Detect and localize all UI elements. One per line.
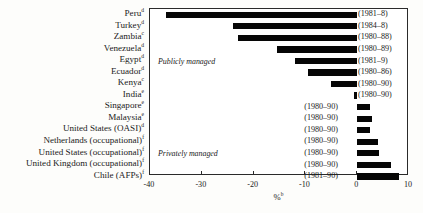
category-label: Perud [0,8,147,20]
category-label: Venezuelad [0,43,147,55]
category-label: Singaporee [0,100,147,112]
period-label: (1980–90) [358,79,392,90]
bar [357,162,391,168]
bar [308,69,357,75]
bar [357,139,378,145]
category-label: United States (occupational)f [0,147,147,159]
x-axis-tick-label: -40 [144,180,155,189]
bar-row: (1980–90) [150,113,407,125]
category-label: United Kingdom (occupational)f [0,158,147,170]
period-label: (1980–89) [358,44,392,55]
x-axis-tick-label: -20 [247,180,258,189]
x-axis-tick [356,171,357,175]
category-axis-labels: PerudTurkeydZambiacVenezueladEgyptdEcuad… [0,8,147,181]
period-label: (1980–88) [358,32,392,43]
category-label: Ecuadord [0,66,147,78]
x-axis-tick [304,171,305,175]
bar [295,58,357,64]
bar-row: (1981–90) [150,171,407,183]
bar [357,104,370,110]
period-label: (1981–8) [358,9,388,20]
period-label: (1980–90) [304,160,338,171]
bar-row: (1980–89) [150,44,407,56]
bar [277,46,357,52]
period-label: (1980–90) [304,125,338,136]
bar-row: (1980–90) [150,78,407,90]
period-label: (1980–86) [358,67,392,78]
category-label: Turkeyd [0,20,147,32]
bar [357,150,379,156]
period-label: (1984–8) [358,21,388,32]
group-annotation-private: Privately managed [158,149,218,158]
x-axis-tick-label: 0 [354,180,358,189]
x-axis: -40-30-20-10010 [149,175,408,176]
bar-row: (1984–8) [150,21,407,33]
bar [331,81,357,87]
figure-gross-returns-chart: PerudTurkeydZambiacVenezueladEgyptdEcuad… [0,0,423,213]
category-label: Netherlands (occupational)f [0,135,147,147]
bar-row: (1980–88) [150,32,407,44]
period-label: (1980–90) [358,90,392,101]
bar [354,92,358,98]
bar [238,35,357,41]
bar [357,127,370,133]
category-label: Kenyac [0,77,147,89]
x-axis-tick-label: 10 [404,180,412,189]
period-label: (1980–90) [304,136,338,147]
category-label: Indiae [0,89,147,101]
period-label: (1980–90) [304,113,338,124]
category-label: United States (OASI)d [0,123,147,135]
bar-row: (1980–90) [150,101,407,113]
category-label: Malaysiae [0,112,147,124]
bar-row: (1980–90) [150,90,407,102]
x-axis-tick [201,171,202,175]
bar [233,23,357,29]
x-axis-tick [253,171,254,175]
period-label: (1981–9) [358,56,388,67]
x-axis-tick-label: -30 [195,180,206,189]
bar-row: (1980–90) [150,136,407,148]
category-label: Egyptd [0,54,147,66]
category-label: Zambiac [0,31,147,43]
x-axis-title: %b [149,192,408,202]
category-label: Chile (AFPs)f [0,170,147,182]
bar-row: (1981–8) [150,9,407,21]
x-axis-tick-label: -10 [299,180,310,189]
bar [357,116,372,122]
bar [166,12,358,18]
bar-row: (1980–90) [150,124,407,136]
bar-row: (1980–86) [150,67,407,79]
period-label: (1980–90) [304,148,338,159]
plot-area: (1981–8)(1984–8)(1980–88)(1980–89)(1981–… [149,8,408,175]
group-annotation-public: Publicly managed [158,57,215,66]
period-label: (1980–90) [304,102,338,113]
bar-row: (1980–90) [150,159,407,171]
